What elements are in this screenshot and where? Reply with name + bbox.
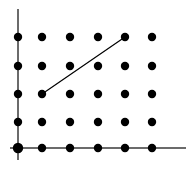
lattice-point	[94, 144, 102, 152]
lattice-point	[94, 33, 102, 41]
lattice-point	[38, 62, 46, 70]
lattice-point	[66, 90, 74, 98]
lattice-point	[38, 118, 46, 126]
lattice-point	[121, 62, 129, 70]
lattice-point	[148, 144, 156, 152]
lattice-point	[121, 33, 129, 41]
lattice-point	[94, 90, 102, 98]
lattice-point	[148, 118, 156, 126]
line-segment	[42, 37, 125, 94]
lattice-point	[121, 118, 129, 126]
lattice-point	[66, 144, 74, 152]
axes-group	[10, 9, 186, 160]
lattice-point	[121, 90, 129, 98]
lattice-point	[148, 90, 156, 98]
lattice-plot	[0, 0, 194, 169]
lattice-point	[38, 33, 46, 41]
lattice-point	[14, 62, 22, 70]
lattice-dots-group	[13, 33, 156, 153]
lattice-point	[148, 33, 156, 41]
lattice-point	[94, 62, 102, 70]
lattice-point	[121, 144, 129, 152]
lattice-point	[148, 62, 156, 70]
lattice-point	[66, 118, 74, 126]
lattice-point	[38, 144, 46, 152]
lattice-figure	[0, 0, 194, 169]
lattice-point	[94, 118, 102, 126]
annotation-segment-group	[42, 37, 125, 94]
lattice-point	[66, 33, 74, 41]
lattice-point	[38, 90, 46, 98]
lattice-point	[66, 62, 74, 70]
lattice-point-origin	[13, 143, 23, 153]
lattice-point	[14, 118, 22, 126]
lattice-point	[14, 33, 22, 41]
lattice-point	[14, 90, 22, 98]
